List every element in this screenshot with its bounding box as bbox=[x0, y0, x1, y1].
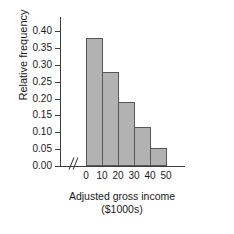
y-tick-label: 0.30 bbox=[12, 60, 52, 70]
y-axis-line bbox=[60, 17, 61, 167]
y-tick-mark bbox=[55, 82, 61, 83]
y-tick-label: 0.20 bbox=[12, 94, 52, 104]
y-tick-mark bbox=[55, 166, 61, 167]
axis-break-icon bbox=[68, 157, 82, 171]
y-tick-label: 0.35 bbox=[12, 43, 52, 53]
y-tick-label: 0.00 bbox=[12, 161, 52, 171]
histogram-bar bbox=[102, 72, 119, 167]
histogram-figure: Relative frequency 0.000.050.100.150.200… bbox=[0, 0, 234, 234]
histogram-bar bbox=[118, 102, 135, 166]
y-tick-mark bbox=[55, 115, 61, 116]
y-tick-label: 0.25 bbox=[12, 77, 52, 87]
y-tick-mark bbox=[55, 65, 61, 66]
x-axis-title: Adjusted gross income ($1000s) bbox=[37, 190, 207, 216]
histogram-bar bbox=[86, 38, 103, 166]
y-tick-mark bbox=[55, 99, 61, 100]
x-tick-label: 50 bbox=[155, 170, 177, 181]
histogram-bar bbox=[150, 148, 167, 166]
y-tick-label: 0.05 bbox=[12, 144, 52, 154]
x-axis-title-units: ($1000s) bbox=[37, 203, 207, 216]
y-tick-mark bbox=[55, 48, 61, 49]
histogram-bar bbox=[134, 127, 151, 166]
y-tick-mark bbox=[55, 132, 61, 133]
y-tick-mark bbox=[55, 31, 61, 32]
y-tick-mark bbox=[55, 149, 61, 150]
x-axis-title-main: Adjusted gross income bbox=[69, 190, 175, 202]
y-tick-label: 0.40 bbox=[12, 26, 52, 36]
y-tick-label: 0.15 bbox=[12, 110, 52, 120]
y-tick-label: 0.10 bbox=[12, 127, 52, 137]
